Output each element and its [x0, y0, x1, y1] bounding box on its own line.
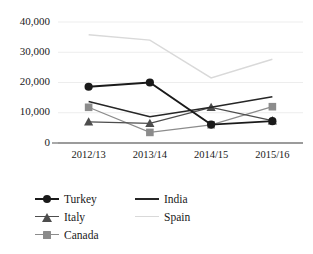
legend-entry-italy[interactable]: Italy	[34, 208, 98, 226]
line-chart: 010,00020,00030,00040,000 2012/132013/14…	[0, 0, 313, 254]
legend-column-1: IndiaSpain	[134, 190, 190, 226]
y-tick-label-0: 0	[4, 136, 50, 148]
x-tick-label-1: 2013/14	[119, 149, 181, 160]
legend-marker-turkey-icon	[34, 190, 60, 208]
legend-label-spain: Spain	[160, 211, 190, 223]
series-india	[89, 97, 273, 117]
data-point-turkey-3	[268, 117, 276, 125]
legend-point-swatch	[42, 213, 52, 222]
legend-marker-canada-icon	[34, 226, 60, 244]
legend-label-italy: Italy	[60, 211, 85, 223]
legend-line-swatch	[135, 198, 159, 200]
y-tick-label-2: 20,000	[4, 75, 50, 87]
legend-marker-italy-icon	[34, 208, 60, 226]
x-tick-label-3: 2015/16	[241, 149, 303, 160]
legend-line-swatch	[135, 216, 159, 217]
legend-label-india: India	[160, 193, 188, 205]
series-line-spain	[89, 35, 273, 78]
legend-label-canada: Canada	[60, 229, 98, 241]
legend-point-swatch	[43, 231, 51, 239]
data-point-turkey-0	[85, 83, 93, 91]
x-tick-label-0: 2012/13	[58, 149, 120, 160]
data-point-canada-1	[146, 129, 154, 137]
data-point-canada-3	[269, 103, 277, 111]
legend-entry-turkey[interactable]: Turkey	[34, 190, 98, 208]
legend-point-swatch	[43, 195, 51, 203]
series-italy	[84, 103, 277, 127]
data-point-turkey-1	[146, 78, 154, 86]
legend-entry-spain[interactable]: Spain	[134, 208, 190, 226]
y-tick-label-3: 30,000	[4, 45, 50, 57]
y-tick-label-4: 40,000	[4, 15, 50, 27]
legend-entry-canada[interactable]: Canada	[34, 226, 98, 244]
legend-entry-india[interactable]: India	[134, 190, 190, 208]
x-tick-label-2: 2014/15	[180, 149, 242, 160]
series-line-india	[89, 97, 273, 117]
data-point-canada-0	[85, 104, 93, 112]
legend-marker-india-icon	[134, 190, 160, 208]
legend-label-turkey: Turkey	[60, 193, 97, 205]
series-spain	[89, 35, 273, 78]
chart-legend: TurkeyItalyCanadaIndiaSpain	[34, 190, 264, 248]
data-point-turkey-2	[207, 120, 215, 128]
y-tick-label-1: 10,000	[4, 105, 50, 117]
series-line-canada	[89, 107, 273, 133]
series-turkey	[85, 78, 277, 128]
legend-column-0: TurkeyItalyCanada	[34, 190, 98, 244]
legend-marker-spain-icon	[134, 208, 160, 226]
